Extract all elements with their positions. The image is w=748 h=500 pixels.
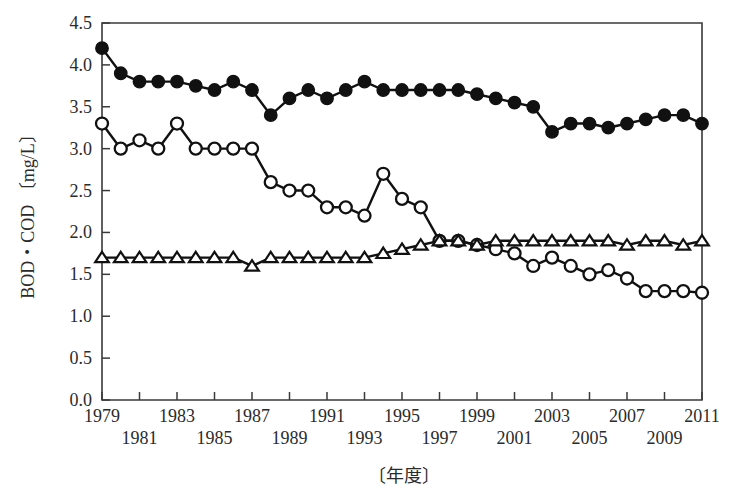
data-point-filled-circle — [415, 84, 427, 96]
x-axis-ticks — [102, 392, 702, 400]
data-point-open-circle — [227, 143, 239, 155]
data-point-filled-circle — [152, 75, 164, 87]
x-tick-label-lower: 1989 — [272, 428, 308, 448]
data-point-filled-circle — [358, 75, 370, 87]
data-point-filled-circle — [208, 84, 220, 96]
data-point-open-triangle — [245, 260, 259, 270]
data-point-filled-circle — [565, 117, 577, 129]
data-point-filled-circle — [602, 122, 614, 134]
data-point-open-circle — [640, 285, 652, 297]
series-open-circle-series — [96, 118, 708, 299]
data-point-filled-circle — [471, 88, 483, 100]
data-point-open-circle — [115, 143, 127, 155]
x-axis-title: 〔年度〕 — [368, 466, 440, 486]
y-tick-label: 1.5 — [70, 264, 93, 284]
chart-figure: BOD・COD 〔mg/L〕 0.00.51.01.52.02.53.03.54… — [0, 0, 748, 500]
plot-frame — [102, 23, 702, 400]
data-point-filled-circle — [171, 75, 183, 87]
data-point-filled-circle — [96, 42, 108, 54]
data-point-filled-circle — [490, 92, 502, 104]
data-point-open-circle — [377, 168, 389, 180]
data-point-filled-circle — [696, 117, 708, 129]
data-point-filled-circle — [340, 84, 352, 96]
data-point-open-circle — [246, 143, 258, 155]
data-point-filled-circle — [133, 75, 145, 87]
data-point-open-circle — [321, 201, 333, 213]
data-point-open-circle — [396, 193, 408, 205]
data-point-open-circle — [584, 268, 596, 280]
data-point-open-circle — [302, 185, 314, 197]
data-point-filled-circle — [377, 84, 389, 96]
series-filled-circle-series — [96, 42, 708, 138]
data-point-open-circle — [659, 285, 671, 297]
y-tick-label: 0.5 — [70, 348, 93, 368]
data-point-filled-circle — [321, 92, 333, 104]
data-point-open-circle — [190, 143, 202, 155]
plot-border — [102, 23, 702, 400]
data-point-open-circle — [359, 210, 371, 222]
x-tick-label-lower: 1985 — [197, 428, 233, 448]
data-point-filled-circle — [583, 117, 595, 129]
data-point-open-circle — [509, 247, 521, 259]
x-tick-label-lower: 1997 — [422, 428, 458, 448]
y-tick-label: 2.5 — [70, 181, 93, 201]
x-tick-label-upper: 2011 — [684, 406, 719, 426]
x-tick-label-upper: 1979 — [84, 406, 120, 426]
data-point-open-circle — [134, 134, 146, 146]
x-tick-label-upper: 1983 — [159, 406, 195, 426]
series-open-triangle-series — [95, 235, 709, 270]
data-point-open-circle — [621, 273, 633, 285]
data-point-filled-circle — [265, 109, 277, 121]
y-axis-title: BOD・COD 〔mg/L〕 — [18, 125, 38, 299]
data-point-open-circle — [152, 143, 164, 155]
data-point-filled-circle — [246, 84, 258, 96]
data-point-open-circle — [415, 201, 427, 213]
data-series-group — [95, 42, 709, 299]
data-point-filled-circle — [283, 92, 295, 104]
x-tick-label-lower: 2009 — [647, 428, 683, 448]
x-tick-label-upper: 2007 — [609, 406, 645, 426]
data-point-open-circle — [96, 118, 108, 130]
data-point-open-circle — [265, 176, 277, 188]
x-tick-label-upper: 1991 — [309, 406, 345, 426]
data-point-open-triangle — [695, 235, 709, 245]
chart-container: BOD・COD 〔mg/L〕 0.00.51.01.52.02.53.03.54… — [0, 0, 748, 500]
x-tick-label-upper: 1987 — [234, 406, 270, 426]
data-point-filled-circle — [396, 84, 408, 96]
x-tick-label-lower: 1993 — [347, 428, 383, 448]
x-tick-label-lower: 2005 — [572, 428, 608, 448]
x-axis-tick-labels: 1979198319871991199519992003200720111981… — [84, 406, 720, 448]
x-tick-label-lower: 1981 — [122, 428, 158, 448]
x-tick-label-upper: 1999 — [459, 406, 495, 426]
data-point-filled-circle — [227, 75, 239, 87]
x-axis-title-label: 〔年度〕 — [368, 466, 440, 486]
data-point-open-circle — [565, 260, 577, 272]
y-axis-title-label: BOD・COD 〔mg/L〕 — [18, 125, 38, 299]
y-tick-label: 4.5 — [70, 13, 93, 33]
y-tick-label: 2.0 — [70, 222, 93, 242]
data-point-filled-circle — [546, 126, 558, 138]
data-point-filled-circle — [527, 101, 539, 113]
data-point-open-circle — [340, 201, 352, 213]
data-point-filled-circle — [115, 67, 127, 79]
x-tick-label-upper: 1995 — [384, 406, 420, 426]
y-tick-label: 3.5 — [70, 97, 93, 117]
x-tick-label-lower: 2001 — [497, 428, 533, 448]
data-point-open-circle — [284, 185, 296, 197]
data-point-open-circle — [209, 143, 221, 155]
data-point-open-circle — [546, 252, 558, 264]
data-point-filled-circle — [452, 84, 464, 96]
data-point-filled-circle — [433, 84, 445, 96]
data-point-open-circle — [696, 287, 708, 299]
data-point-filled-circle — [677, 109, 689, 121]
y-axis-ticks: 0.00.51.01.52.02.53.03.54.04.5 — [70, 13, 111, 410]
data-point-filled-circle — [190, 80, 202, 92]
y-tick-label: 4.0 — [70, 55, 93, 75]
y-tick-label: 3.0 — [70, 139, 93, 159]
data-point-open-circle — [602, 264, 614, 276]
y-tick-label: 1.0 — [70, 306, 93, 326]
data-point-open-circle — [677, 285, 689, 297]
x-tick-label-upper: 2003 — [534, 406, 570, 426]
data-point-filled-circle — [658, 109, 670, 121]
data-point-open-circle — [527, 260, 539, 272]
